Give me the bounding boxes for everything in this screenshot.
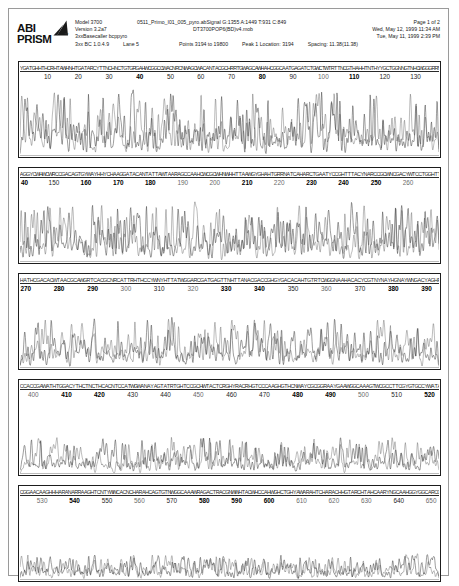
- scale-tick-label: 90: [290, 71, 297, 83]
- scale-tick-label: 130: [410, 71, 421, 83]
- trace-panel-2[interactable]: AGGYCWHWCWRCCGACAGTGYWAYHHYCHAAGGATACANT…: [18, 167, 441, 264]
- header-instrument-column: Model 3700 Version 3.2a7 3xxBasecaller b…: [75, 19, 139, 48]
- header-version: Version 3.2a7: [75, 26, 139, 33]
- base-position-scale: 102030405060708090100110120130: [19, 71, 440, 84]
- header-page-number: Page 1 of 2: [372, 19, 440, 26]
- electropherogram-trace: [20, 296, 439, 368]
- scale-tick-label: 410: [61, 389, 72, 401]
- base-position-scale: 530540550560570580590600610620630640650: [19, 495, 440, 508]
- trace-panel-1[interactable]: YGATGHHTHCRHTAWHNHTGATARCYTTNCHNCTGTGRGA…: [18, 61, 441, 158]
- scale-tick-label: 540: [69, 495, 80, 507]
- scale-tick-label: 320: [188, 283, 199, 295]
- svg-text:R: R: [437, 277, 439, 283]
- scale-tick-label: 10: [44, 71, 51, 83]
- header-sample-column: 0511_Primo_I01_005_pyro.abSignal G:1355 …: [137, 19, 358, 48]
- electropherogram-trace: [20, 190, 439, 262]
- scale-tick-label: 370: [355, 283, 366, 295]
- scale-tick-label: 520: [424, 389, 435, 401]
- trademark-symbol: ™: [64, 32, 69, 37]
- scale-tick-label: 20: [75, 71, 82, 83]
- header-basecaller: 3xxBasecaller bcppyro: [75, 33, 139, 40]
- scale-tick-label: 350: [288, 283, 299, 295]
- scale-tick-label: 290: [87, 283, 98, 295]
- scale-tick-label: 240: [338, 177, 349, 189]
- page-bottom-margin: [9, 569, 448, 575]
- scale-tick-label: 70: [228, 71, 235, 83]
- trace-panel-4[interactable]: CCACCGAWATHTGGACYTHCTNCTHCACNTCCATWGWANA…: [18, 379, 441, 476]
- scale-tick-label: 100: [318, 71, 329, 83]
- scale-tick-label: 610: [296, 495, 307, 507]
- scale-tick-label: 650: [426, 495, 437, 507]
- scale-tick-label: 590: [231, 495, 242, 507]
- base-position-scale: 400410420430440450460470480490500510520: [19, 389, 440, 402]
- scale-tick-label: 440: [160, 389, 171, 401]
- header-run-date: Tue, May 11, 1999 2:39 PM: [372, 33, 440, 40]
- svg-text:G: G: [437, 489, 439, 495]
- scale-tick-label: 390: [421, 283, 432, 295]
- header-print-date: Wed, May 12, 1999 11:34 AM: [372, 26, 440, 33]
- scale-tick-label: 460: [226, 389, 237, 401]
- scale-tick-label: 340: [254, 283, 265, 295]
- scale-tick-label: 160: [81, 177, 92, 189]
- abi-prism-wordmark: ABI PRISM: [17, 23, 51, 45]
- electropherogram-trace: [20, 402, 439, 474]
- scale-tick-label: 640: [393, 495, 404, 507]
- header-sample-name: 0511_Primo_I01_005_pyro.ab: [137, 19, 206, 25]
- svg-text:T: T: [438, 171, 439, 177]
- logo-line-prism: PRISM: [17, 34, 51, 45]
- scale-tick-label: 180: [145, 177, 156, 189]
- header-date-column: Page 1 of 2 Wed, May 12, 1999 11:34 AM T…: [372, 19, 440, 41]
- scale-tick-label: 30: [106, 71, 113, 83]
- scale-tick-label: 260: [403, 177, 414, 189]
- scale-tick-label: 580: [199, 495, 210, 507]
- printed-page-sheet: ABI PRISM ™ Model 3700 Version 3.2a7 3xx…: [8, 8, 449, 576]
- svg-text:N: N: [438, 65, 439, 71]
- scale-tick-label: 330: [221, 283, 232, 295]
- scale-tick-label: 600: [264, 495, 275, 507]
- report-header: ABI PRISM ™ Model 3700 Version 3.2a7 3xx…: [9, 9, 448, 59]
- scale-tick-label: 560: [134, 495, 145, 507]
- scale-tick-label: 470: [259, 389, 270, 401]
- header-points: Points 3194 to 19800: [179, 41, 228, 47]
- header-model: Model 3700: [75, 19, 139, 26]
- abi-prism-logo: ABI PRISM ™: [17, 19, 69, 53]
- header-spacing: Spacing: 11.38(11.38): [308, 41, 358, 47]
- scale-tick-label: 120: [380, 71, 391, 83]
- scale-tick-label: 40: [21, 177, 28, 189]
- scale-tick-label: 220: [274, 177, 285, 189]
- scale-tick-label: 110: [349, 71, 359, 83]
- base-position-scale: 270280290300310320330340350360370380390: [19, 283, 440, 296]
- scale-tick-label: 190: [177, 177, 188, 189]
- scale-tick-label: 620: [329, 495, 340, 507]
- header-peak1-location: Peak 1 Location: 3194: [242, 41, 294, 47]
- base-position-scale: 40150160170180190200210220230240250260: [19, 177, 440, 190]
- trace-panel-3[interactable]: HATHCGACACWTAACGCAWGRTCACGCNRCATTRHTHCCY…: [18, 273, 441, 370]
- scale-tick-label: 150: [49, 177, 60, 189]
- scale-tick-label: 510: [391, 389, 402, 401]
- scale-tick-label: 210: [242, 177, 253, 189]
- scale-tick-label: 570: [166, 495, 177, 507]
- scale-tick-label: 40: [136, 71, 143, 83]
- scale-tick-label: 300: [121, 283, 132, 295]
- svg-text:A: A: [438, 383, 439, 389]
- header-bc-version: 3xx BC 1.0.4.9: [75, 41, 109, 47]
- scale-tick-label: 490: [325, 389, 336, 401]
- scale-tick-label: 450: [193, 389, 204, 401]
- scale-tick-label: 500: [358, 389, 369, 401]
- scale-tick-label: 530: [37, 495, 48, 507]
- electropherogram-trace: [20, 84, 439, 156]
- trace-panel-stack: YGATGHHTHCRHTAWHNHTGATARCYTTNCHNCTGTGRGA…: [18, 61, 441, 586]
- scale-tick-label: 230: [306, 177, 317, 189]
- scale-tick-label: 400: [28, 389, 39, 401]
- scale-tick-label: 280: [54, 283, 65, 295]
- scale-tick-label: 420: [94, 389, 105, 401]
- header-signal: Signal G:1355 A:1449 T:931 C:849: [206, 19, 286, 25]
- scale-tick-label: 250: [371, 177, 382, 189]
- scale-tick-label: 80: [259, 71, 266, 83]
- scale-tick-label: 310: [154, 283, 165, 295]
- trace-panel-5[interactable]: CGGAACAAGHHHARANARRAAGHTCNTYWWCACNCHARAH…: [18, 485, 441, 582]
- scale-tick-label: 170: [113, 177, 124, 189]
- scale-tick-label: 430: [127, 389, 138, 401]
- scale-tick-label: 380: [388, 283, 399, 295]
- scale-tick-label: 480: [292, 389, 303, 401]
